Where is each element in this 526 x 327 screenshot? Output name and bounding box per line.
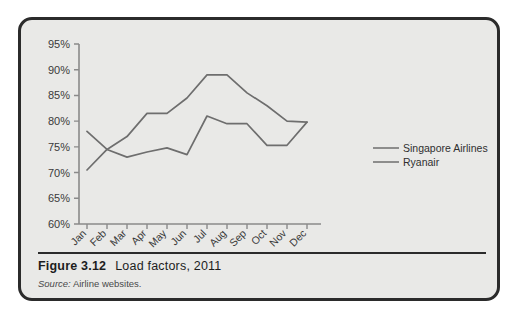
figure-caption: Figure 3.12Load factors, 2011 Source: Ai… (38, 259, 488, 289)
figure-title: Load factors, 2011 (115, 259, 221, 273)
x-axis-month-label: Aug (207, 227, 229, 249)
y-axis-tick-label: 85% (48, 89, 70, 101)
caption-line: Figure 3.12Load factors, 2011 (38, 259, 488, 273)
figure-number: Figure 3.12 (38, 259, 106, 273)
chart-plot-area: 60%65%70%75%80%85%90%95%JanFebMarAprMayJ… (21, 20, 500, 256)
x-axis-month-label: Apr (128, 227, 148, 247)
x-axis-month-label: Jul (190, 227, 208, 245)
y-axis-tick-label: 95% (48, 38, 70, 50)
figure-source: Source: Airline websites. (38, 278, 488, 289)
legend-label-ryanair: Ryanair (403, 156, 440, 168)
x-axis-month-label: May (146, 226, 169, 249)
figure-card: 60%65%70%75%80%85%90%95%JanFebMarAprMayJ… (18, 17, 500, 301)
load-factors-line-chart: 60%65%70%75%80%85%90%95%JanFebMarAprMayJ… (21, 20, 500, 256)
series-line-ryanair (87, 116, 307, 157)
source-text: Airline websites. (73, 278, 142, 289)
y-axis-tick-label: 65% (48, 192, 70, 204)
y-axis-tick-label: 90% (48, 64, 70, 76)
x-axis-month-label: Jan (68, 227, 89, 248)
x-axis-month-label: Feb (87, 227, 108, 248)
x-axis-month-label: Oct (248, 227, 268, 247)
x-axis-month-label: Dec (287, 227, 309, 249)
x-axis-month-label: Sep (227, 227, 249, 249)
y-axis-tick-label: 75% (48, 141, 70, 153)
x-axis-month-label: Nov (267, 226, 289, 248)
y-axis-tick-label: 60% (48, 218, 70, 230)
caption-divider (38, 252, 486, 254)
x-axis-month-label: Jun (168, 227, 189, 248)
series-line-singapore-airlines (87, 75, 307, 170)
source-prefix: Source: (38, 278, 71, 289)
y-axis-tick-label: 80% (48, 115, 70, 127)
legend-label-singapore-airlines: Singapore Airlines (403, 142, 488, 154)
x-axis-month-label: Mar (107, 227, 129, 249)
y-axis-tick-label: 70% (48, 167, 70, 179)
